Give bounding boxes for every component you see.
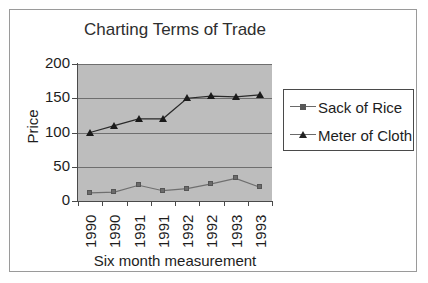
legend-item-label: Sack of Rice [318,99,402,116]
chart-canvas: Charting Terms of Trade Price 0501001502… [0,0,428,283]
triangle-marker-icon [290,129,316,141]
x-tick-label: 1992 [203,208,220,248]
data-point-triangle [86,129,94,136]
legend: Sack of Rice Meter of Cloth [283,89,414,151]
y-axis-line [77,63,78,202]
data-point-triangle [159,115,167,122]
data-point-triangle [207,92,215,99]
x-tick-mark [175,201,176,206]
data-point-square [136,182,141,187]
x-tick-mark [272,201,273,206]
legend-item-label: Meter of Cloth [318,127,412,144]
data-point-triangle [183,94,191,101]
page-title: Charting Terms of Trade [60,20,290,40]
y-tick-label: 150 [30,88,70,105]
x-tick-label: 1991 [131,208,148,248]
x-tick-label: 1993 [228,208,245,248]
x-tick-label: 1992 [179,208,196,248]
data-point-square [233,175,238,180]
data-point-triangle [232,93,240,100]
x-tick-label: 1993 [252,208,269,248]
x-tick-mark [248,201,249,206]
y-tick-label: 100 [30,123,70,140]
x-tick-label: 1991 [155,208,172,248]
data-point-square [87,190,92,195]
x-tick-mark [151,201,152,206]
x-tick-label: 1990 [82,208,99,248]
data-point-square [257,184,262,189]
data-point-triangle [110,122,118,129]
x-tick-label: 1990 [106,208,123,248]
x-tick-mark [224,201,225,206]
y-tick-label: 50 [30,157,70,174]
square-marker-icon [290,101,316,113]
plot-area [78,64,272,201]
x-tick-mark [102,201,103,206]
data-point-square [160,188,165,193]
x-tick-mark [199,201,200,206]
data-point-triangle [135,115,143,122]
x-tick-mark [78,201,79,206]
legend-item[interactable]: Sack of Rice [284,95,413,119]
data-point-triangle [256,91,264,98]
series-lines [78,64,272,201]
data-point-square [208,181,213,186]
y-tick-label: 200 [30,54,70,71]
data-point-square [184,186,189,191]
legend-item[interactable]: Meter of Cloth [284,123,413,147]
x-tick-mark [127,201,128,206]
x-axis-label: Six month measurement [55,252,295,269]
y-tick-label: 0 [30,191,70,208]
data-point-square [111,189,116,194]
